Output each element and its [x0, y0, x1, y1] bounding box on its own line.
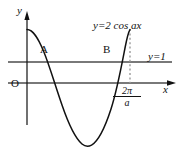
tick-numerator: 2π	[113, 85, 141, 97]
x-tick-label-2pi-over-a: 2π a	[113, 85, 141, 109]
y-axis-arrowhead	[24, 11, 29, 20]
point-a-label: A	[40, 44, 48, 55]
origin-label: O	[11, 78, 19, 89]
y-axis-label: y	[17, 5, 22, 16]
point-b-label: B	[103, 44, 110, 55]
x-axis-label: x	[163, 84, 168, 95]
graph-canvas	[0, 0, 180, 159]
horizontal-line-equation-label: y=1	[148, 51, 166, 62]
tick-denominator: a	[113, 97, 141, 109]
math-figure: y x O A B y=2 cos ax y=1 2π a	[0, 0, 180, 159]
curve-equation-label: y=2 cos ax	[93, 20, 141, 31]
x-axis-arrowhead	[167, 80, 176, 86]
